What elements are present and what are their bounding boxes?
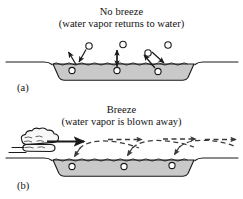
cloud-lower-lobe-icon <box>23 144 55 151</box>
panel-a-airborne-molecule <box>86 43 92 49</box>
panel-b-surface-molecule <box>121 163 127 169</box>
panel-a-airborne-molecule <box>165 42 171 48</box>
panel-a-ground-right <box>195 62 238 65</box>
panel-a-surface-molecule <box>114 67 120 73</box>
panel-a-airborne-molecule <box>145 50 151 56</box>
panel-a-return-arrow <box>79 50 86 63</box>
panel-b-scene <box>6 128 238 176</box>
evaporation-figure: No breeze (water vapor returns to water)… <box>0 0 243 199</box>
vapor-origin-arrow <box>75 148 81 157</box>
diagram-artwork <box>0 0 243 199</box>
vapor-trajectory-dashed <box>175 140 234 154</box>
panel-b-surface-molecule <box>169 162 175 168</box>
panel-a-surface-molecule <box>155 68 161 74</box>
panel-a-scene <box>6 41 238 80</box>
panel-b-ground-right <box>195 158 238 161</box>
panel-b-ground-left <box>6 158 52 161</box>
panel-a-return-arrow <box>152 52 164 63</box>
panel-a-airborne-molecule <box>120 41 126 47</box>
panel-a-surface-molecule <box>69 67 75 73</box>
vapor-origin-arrow <box>175 146 181 155</box>
vapor-trajectory-dashed <box>75 141 139 156</box>
vapor-origin-arrow <box>128 147 134 156</box>
panel-b-surface-molecule <box>69 163 75 169</box>
